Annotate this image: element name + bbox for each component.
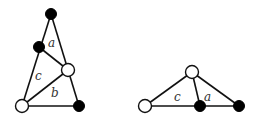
label-b: b [51,86,59,100]
label-c: c [174,90,181,104]
diagram-canvas: a c b c a [0,0,256,124]
label-a: a [204,90,211,104]
left-figure: a c b [16,9,85,113]
node-bottomleft-white [16,100,29,113]
node-midleft-black [34,42,45,53]
edge-bottomleft-midright [22,70,68,106]
node-right-black [234,101,245,112]
edge-top-bottom-left [22,14,51,106]
edge-top-left [145,72,192,106]
node-midright-white [62,64,75,77]
node-top-black [46,9,57,20]
label-c: c [35,69,42,83]
node-top-white [186,66,199,79]
node-bottomright-black [74,101,85,112]
label-a: a [48,36,55,50]
right-figure: c a [139,66,245,113]
node-left-white [139,100,152,113]
